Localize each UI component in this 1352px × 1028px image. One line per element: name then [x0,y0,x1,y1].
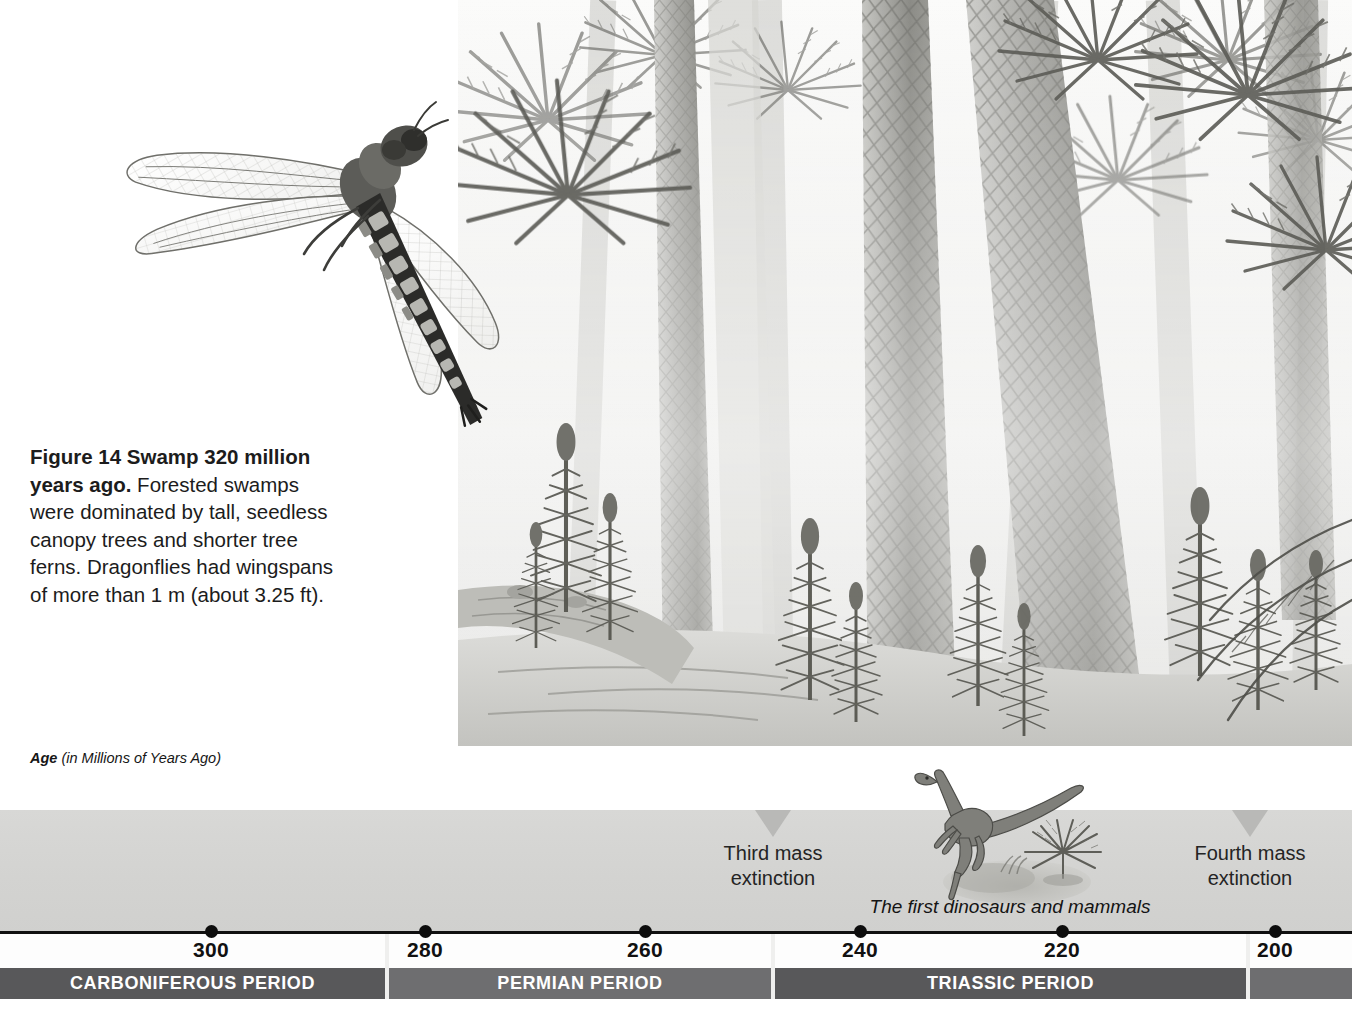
down-triangle-icon [755,810,791,837]
geologic-timeline: The first dinosaurs and mammals Third ma… [0,810,1352,1028]
tick-dot [1269,925,1282,938]
tick-dot [205,925,218,938]
early-dinosaur-illustration [905,768,1120,910]
tick-dot [1056,925,1069,938]
third-extinction-line1: Third mass [724,842,823,864]
tick-label-200: 200 [1257,938,1293,962]
tick-label-300: 300 [193,938,229,962]
period-bar-carboniferous: CARBONIFEROUS PERIOD [0,968,385,999]
age-axis-label: Age (in Millions of Years Ago) [30,750,221,766]
age-axis-label-rest: (in Millions of Years Ago) [57,750,221,766]
figure-page: Figure 14 Swamp 320 million years ago. F… [0,0,1352,1028]
carboniferous-swamp-illustration [458,0,1352,746]
age-axis-label-strong: Age [30,750,57,766]
tick-dot [639,925,652,938]
tick-dot [419,925,432,938]
period-bars: CARBONIFEROUS PERIOD PERMIAN PERIOD TRIA… [0,968,1352,999]
fourth-extinction-line1: Fourth mass [1194,842,1305,864]
period-bar-jurassic-partial [1250,968,1352,999]
timeline-axis-line [0,931,1352,934]
tick-dot [854,925,867,938]
tick-label-240: 240 [842,938,878,962]
tick-label-260: 260 [627,938,663,962]
period-bar-triassic: TRIASSIC PERIOD [775,968,1246,999]
tick-label-220: 220 [1044,938,1080,962]
dinosaur-caption: The first dinosaurs and mammals [870,896,1151,918]
down-triangle-icon [1232,810,1268,837]
period-bar-permian: PERMIAN PERIOD [389,968,771,999]
fourth-extinction-line2: extinction [1208,867,1293,889]
figure-caption: Figure 14 Swamp 320 million years ago. F… [30,443,340,608]
giant-dragonfly-illustration [118,40,538,440]
tick-label-280: 280 [407,938,443,962]
third-extinction-line2: extinction [731,867,816,889]
